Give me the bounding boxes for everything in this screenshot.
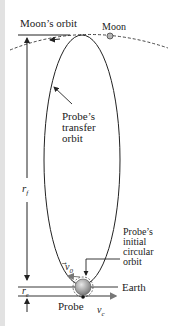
rf-label: rf	[22, 183, 28, 199]
transfer-orbit	[44, 35, 120, 285]
moons-orbit-label: Moon’s orbit	[20, 18, 77, 29]
earth-label: Earth	[122, 282, 146, 293]
initial-orbit-label-4: orbit	[123, 256, 142, 267]
moon-label: Moon	[102, 21, 126, 32]
moon-icon	[107, 33, 113, 39]
vc-label: vc	[97, 304, 105, 320]
probe-label: Probe	[58, 301, 84, 312]
re-label: re	[22, 285, 29, 301]
orbit-diagram	[0, 0, 173, 326]
v0-label: ⃗v0	[65, 261, 73, 277]
probe-icon	[81, 295, 85, 299]
transfer-orbit-label-3: orbit	[62, 133, 83, 144]
earth-icon	[75, 279, 91, 295]
